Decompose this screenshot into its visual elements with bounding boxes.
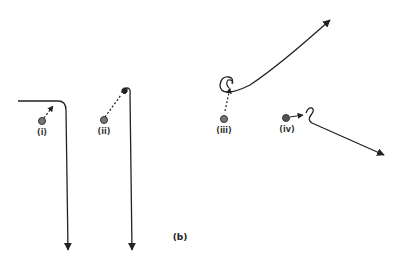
panel-ii: (ii) xyxy=(98,88,132,250)
panel-iv: (iv) xyxy=(279,108,384,155)
label-i: (i) xyxy=(37,128,47,137)
particle-dot-iv xyxy=(283,115,290,122)
panel-iii: (iii) xyxy=(216,20,330,135)
trajectory-iv xyxy=(306,108,384,155)
figure-label: (b) xyxy=(173,232,188,242)
trajectory-iii xyxy=(220,20,330,92)
label-iii: (iii) xyxy=(216,126,232,135)
particle-dot-i xyxy=(39,118,46,125)
curl-ii xyxy=(122,88,127,94)
particle-dot-iii xyxy=(221,116,228,123)
trajectory-diagram: (i) (ii) (iii) (iv) (b) xyxy=(0,0,403,263)
label-ii: (ii) xyxy=(98,127,111,136)
particle-dot-ii xyxy=(101,117,108,124)
solid-arrow-iv xyxy=(290,115,303,117)
label-iv: (iv) xyxy=(279,125,294,134)
trajectory-ii xyxy=(125,88,132,250)
panel-i: (i) xyxy=(18,101,68,250)
dashed-arrow-ii xyxy=(105,95,121,117)
dashed-arrow-i xyxy=(44,106,53,118)
